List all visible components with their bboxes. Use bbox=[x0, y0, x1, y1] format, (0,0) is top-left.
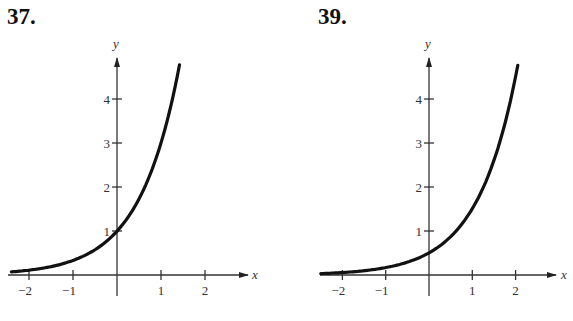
y-tick-label: 4 bbox=[104, 92, 111, 107]
x-axis-label: x bbox=[560, 267, 567, 282]
x-tick-label: 1 bbox=[469, 283, 476, 298]
x-tick-label: −1 bbox=[62, 283, 76, 298]
graph-37: −2−112 1234 x y bbox=[8, 36, 258, 298]
y-tick-label: 2 bbox=[104, 180, 111, 195]
x-tick-label: 2 bbox=[512, 283, 519, 298]
x-ticks: −2−112 bbox=[18, 270, 208, 298]
y-tick-label: 4 bbox=[416, 92, 423, 107]
x-ticks: −2−112 bbox=[331, 270, 518, 298]
y-axis-label: y bbox=[423, 36, 431, 51]
y-tick-label: 3 bbox=[104, 136, 111, 151]
x-tick-label: −1 bbox=[375, 283, 389, 298]
y-tick-label: 2 bbox=[416, 180, 423, 195]
y-axis-label: y bbox=[111, 36, 119, 51]
x-tick-label: 1 bbox=[158, 283, 165, 298]
y-ticks: 1234 bbox=[416, 92, 435, 239]
y-tick-label: 3 bbox=[416, 136, 423, 151]
exponential-curve bbox=[11, 65, 179, 272]
graph-39: −2−112 1234 x y bbox=[320, 36, 567, 298]
graphs-canvas: −2−112 1234 x y −2−112 1234 x y bbox=[0, 0, 573, 321]
y-ticks: 1234 bbox=[104, 92, 123, 239]
x-axis-label: x bbox=[251, 267, 258, 282]
y-tick-label: 1 bbox=[104, 224, 111, 239]
x-tick-label: 2 bbox=[202, 283, 209, 298]
x-tick-label: −2 bbox=[18, 283, 32, 298]
x-tick-label: −2 bbox=[331, 283, 345, 298]
y-tick-label: 1 bbox=[416, 224, 423, 239]
